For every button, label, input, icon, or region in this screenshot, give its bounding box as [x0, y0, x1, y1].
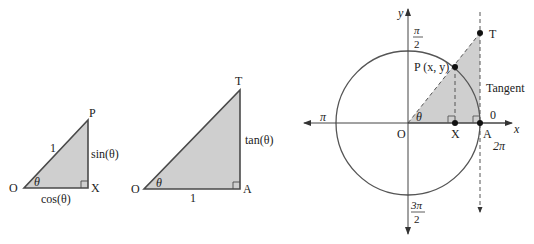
point-x-label: X [451, 127, 460, 141]
tan-label: tan(θ) [245, 133, 273, 147]
half-pi-denominator: 2 [414, 38, 420, 50]
vertex-o-label: O [9, 181, 18, 195]
angle-three-half-pi-label: 3π 2 [410, 199, 425, 225]
angle-half-pi-label: π 2 [413, 24, 423, 50]
angle-two-pi-label: 2π [493, 139, 506, 153]
triangle-oat-shape [144, 90, 240, 189]
origin-label: O [397, 127, 406, 141]
tangent-label: Tangent [486, 81, 525, 95]
point-t [477, 30, 483, 36]
hypotenuse-label: 1 [50, 141, 56, 155]
triangle-sin-cos: P 1 sin(θ) O X θ cos(θ) [9, 106, 119, 206]
cos-label: cos(θ) [41, 192, 71, 206]
vertex-p-label: P [89, 106, 96, 120]
theta-label: θ [416, 110, 422, 124]
unit-circle-diagram: y x O θ P (x, y) X A T Tangent 0 2π π π … [304, 6, 525, 234]
three-half-pi-denominator: 2 [414, 213, 420, 225]
point-x [452, 120, 458, 126]
triangle-tan: T tan(θ) O A θ 1 [131, 74, 273, 205]
vertex-t-label: T [235, 74, 243, 88]
vertex-o-label: O [131, 182, 140, 196]
trig-diagram: P 1 sin(θ) O X θ cos(θ) T tan(θ) O A θ 1 [0, 0, 534, 244]
adjacent-label: 1 [190, 191, 196, 205]
point-t-label: T [489, 27, 497, 41]
x-axis-label: x [513, 122, 520, 136]
sin-label: sin(θ) [91, 147, 119, 161]
point-p-label: P (x, y) [414, 60, 449, 74]
vertex-a-label: A [243, 182, 252, 196]
theta-label: θ [34, 175, 40, 189]
point-p [452, 64, 458, 70]
point-a [477, 120, 483, 126]
angle-pi-label: π [320, 110, 327, 124]
vertex-x-label: X [91, 181, 100, 195]
half-pi-numerator: π [414, 24, 420, 36]
y-axis-label: y [397, 6, 404, 20]
three-half-pi-numerator: 3π [410, 199, 423, 211]
point-a-label: A [483, 127, 492, 141]
theta-label: θ [156, 176, 162, 190]
angle-zero-label: 0 [490, 108, 496, 122]
